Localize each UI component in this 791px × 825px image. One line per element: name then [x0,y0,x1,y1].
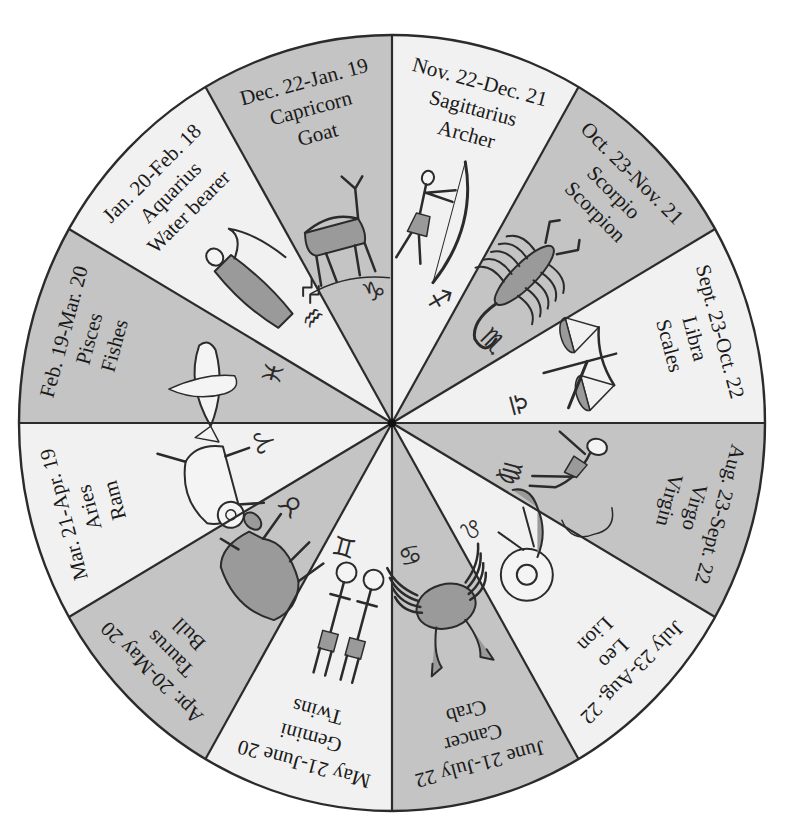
zodiac-wheel: ♐♏♎♍♌♋♊♉♈♓♒♑ Nov. 22-Dec. 21SagittariusA… [0,0,791,825]
wheel-center-hub [388,419,396,427]
